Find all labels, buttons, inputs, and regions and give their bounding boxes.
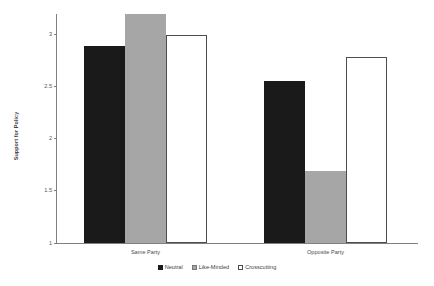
y-axis-tick: 1.5	[30, 186, 57, 195]
bar-neutral-opposite-party	[264, 81, 305, 243]
y-axis-tick-label: 2	[49, 134, 52, 143]
legend-item-neutral[interactable]: Neutral	[158, 264, 183, 270]
bar-like-minded-opposite-party	[305, 171, 346, 243]
plot-area	[57, 14, 417, 243]
x-axis-category-label: Same Party	[106, 249, 186, 255]
legend-item-like-minded[interactable]: Like-Minded	[192, 264, 229, 270]
legend-label: Like-Minded	[199, 264, 229, 270]
y-axis-tick-label: 1.5	[44, 186, 52, 195]
y-axis-tick-label: 2.5	[44, 82, 52, 91]
legend-label: Crosscutting	[245, 264, 276, 270]
bar-chart: Support for Policy 11.522.53 Same PartyO…	[0, 0, 434, 286]
y-axis-title: Support for Policy	[8, 96, 24, 176]
y-axis-tick: 3	[30, 30, 57, 39]
y-axis-tick: 1	[30, 239, 57, 248]
legend-swatch-icon	[238, 265, 243, 270]
bar-neutral-same-party	[84, 46, 125, 243]
y-axis-tick: 2.5	[30, 82, 57, 91]
legend-label: Neutral	[165, 264, 183, 270]
y-axis-tick: 2	[30, 134, 57, 143]
y-axis-tick-label: 1	[49, 239, 52, 248]
legend-item-crosscutting[interactable]: Crosscutting	[238, 264, 276, 270]
x-axis-category-label: Opposite Party	[286, 249, 366, 255]
x-axis-line	[56, 243, 418, 244]
y-axis-title-text: Support for Policy	[13, 112, 19, 161]
bar-like-minded-same-party	[125, 14, 166, 243]
y-axis-tick-label: 3	[49, 30, 52, 39]
legend-swatch-icon	[192, 265, 197, 270]
legend-swatch-icon	[158, 265, 163, 270]
bar-crosscutting-same-party	[166, 35, 207, 243]
bar-crosscutting-opposite-party	[346, 57, 387, 243]
chart-legend: NeutralLike-MindedCrosscutting	[0, 264, 434, 270]
